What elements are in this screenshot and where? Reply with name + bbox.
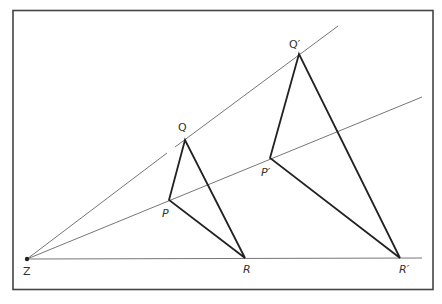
- label-r: R: [243, 263, 251, 276]
- triangle-pqr: [169, 140, 245, 258]
- ray-through-r: [27, 258, 422, 259]
- label-q-prime: Q′: [289, 38, 301, 51]
- diagram-frame: [13, 11, 433, 290]
- label-z: Z: [23, 265, 31, 278]
- label-p: P: [162, 207, 169, 220]
- triangle-pqr-image: [270, 54, 400, 258]
- enlargement-diagram: Z Q P R Q′ P′ R′: [0, 0, 442, 304]
- ray-through-q: [27, 153, 167, 259]
- construction-rays: [27, 26, 422, 259]
- label-q: Q: [178, 121, 187, 134]
- label-r-prime: R′: [399, 263, 410, 276]
- ray-through-q-continued: [175, 26, 338, 147]
- ray-through-p: [27, 97, 422, 259]
- label-p-prime: P′: [261, 166, 271, 179]
- centre-point-z: [25, 257, 29, 261]
